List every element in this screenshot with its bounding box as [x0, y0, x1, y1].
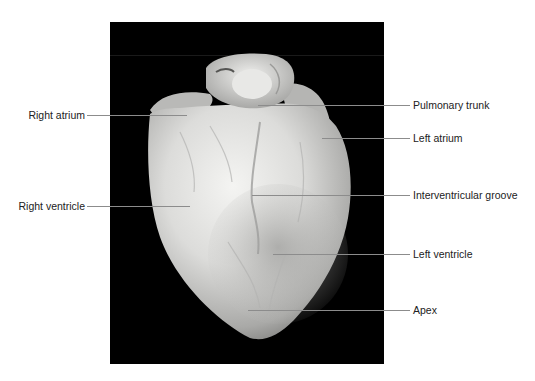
- leader-right-atrium: [87, 115, 187, 116]
- leader-right-ventricle: [87, 206, 190, 207]
- leader-left-atrium: [322, 138, 410, 139]
- label-interventricular-groove: Interventricular groove: [413, 189, 517, 201]
- leader-left-ventricle: [273, 254, 410, 255]
- label-right-ventricle: Right ventricle: [10, 200, 85, 212]
- leader-pulmonary-trunk: [258, 105, 410, 106]
- label-left-ventricle: Left ventricle: [413, 248, 473, 260]
- label-left-atrium: Left atrium: [413, 132, 463, 144]
- leader-interventricular-groove: [252, 195, 410, 196]
- heart-photograph: [110, 22, 384, 364]
- label-apex: Apex: [413, 304, 437, 316]
- heart-anatomy-figure: Right atrium Right ventricle Pulmonary t…: [0, 0, 535, 381]
- label-right-atrium: Right atrium: [20, 109, 85, 121]
- label-pulmonary-trunk: Pulmonary trunk: [413, 99, 489, 111]
- leader-apex: [248, 310, 410, 311]
- heart-specimen-image: [110, 22, 384, 364]
